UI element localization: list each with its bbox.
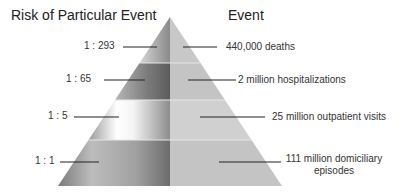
tier-1-left bbox=[140, 17, 170, 63]
risk-label: 1 : 65 bbox=[66, 73, 91, 85]
event-label: 440,000 deaths bbox=[226, 41, 295, 53]
event-label-line: episodes bbox=[279, 165, 389, 177]
tier-1-right bbox=[170, 17, 200, 63]
risk-label: 1 : 5 bbox=[48, 110, 67, 122]
risk-label: 1 : 293 bbox=[84, 40, 115, 52]
tier-2-left bbox=[115, 63, 170, 100]
tier-3-left bbox=[88, 100, 170, 140]
event-label: 2 million hospitalizations bbox=[238, 74, 346, 86]
tier-4-right bbox=[170, 140, 282, 186]
tier-4-left bbox=[58, 140, 170, 186]
event-label: 111 million domiciliaryepisodes bbox=[279, 153, 389, 177]
event-label-line: 111 million domiciliary bbox=[279, 153, 389, 165]
tier-2-right bbox=[170, 63, 225, 100]
event-label: 25 million outpatient visits bbox=[272, 111, 386, 123]
risk-label: 1 : 1 bbox=[35, 155, 54, 167]
tier-3-right bbox=[170, 100, 252, 140]
